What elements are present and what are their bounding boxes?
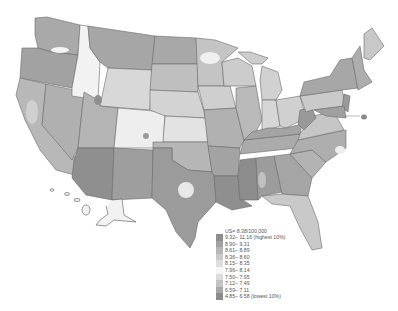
legend-swatch <box>216 293 223 300</box>
legend-swatch <box>216 234 223 241</box>
state-south-dakota <box>150 64 198 92</box>
state-iowa <box>198 86 236 110</box>
state-new-york <box>300 58 358 96</box>
legend-row: 4.85– 6.58 (lowest 10%) <box>216 293 336 300</box>
state-arkansas <box>208 146 240 176</box>
state-new-mexico <box>112 148 153 200</box>
legend-label: 6.59– 7.11 <box>225 287 249 294</box>
legend: US= 8.38/100,000 9.32– 11.16 (highest 10… <box>216 228 336 300</box>
state-maine <box>364 28 384 60</box>
legend-label: 8.61– 8.89 <box>225 247 250 254</box>
legend-swatch <box>216 287 223 294</box>
state-north-dakota <box>152 36 198 64</box>
legend-row: 8.90– 9.31 <box>216 241 336 248</box>
legend-label: 7.50– 7.95 <box>225 274 250 281</box>
legend-swatch <box>216 280 223 287</box>
legend-label: 8.90– 9.31 <box>225 241 250 248</box>
legend-row: 9.32– 11.16 (highest 10%) <box>216 234 336 241</box>
legend-swatch <box>216 247 223 254</box>
legend-row: 8.61– 8.89 <box>216 247 336 254</box>
state-michigan <box>260 66 282 100</box>
legend-row: 8.15– 8.35 <box>216 260 336 267</box>
state-mississippi <box>238 158 258 200</box>
legend-label: 9.32– 11.16 (highest 10%) <box>225 234 285 241</box>
legend-row: 7.96– 8.14 <box>216 267 336 274</box>
state-wyoming <box>100 68 152 110</box>
state-kansas <box>163 116 208 142</box>
legend-label: 7.12– 7.49 <box>225 280 250 287</box>
legend-swatch <box>216 267 223 274</box>
legend-label: 8.36– 8.60 <box>225 254 250 261</box>
legend-swatch <box>216 260 223 267</box>
legend-row: 7.12– 7.49 <box>216 280 336 287</box>
legend-row: 8.36– 8.60 <box>216 254 336 261</box>
legend-swatch <box>216 254 223 261</box>
legend-swatch <box>216 274 223 281</box>
legend-label: 4.85– 6.58 (lowest 10%) <box>225 293 281 300</box>
state-arizona <box>72 148 114 200</box>
legend-label: 8.15– 8.35 <box>225 260 250 267</box>
legend-swatch <box>216 241 223 248</box>
us-choropleth-map <box>0 0 398 311</box>
legend-row: 7.50– 7.95 <box>216 274 336 281</box>
legend-row: 6.59– 7.11 <box>216 287 336 294</box>
legend-label: 7.96– 8.14 <box>225 267 250 274</box>
alaska-inset <box>96 199 136 226</box>
